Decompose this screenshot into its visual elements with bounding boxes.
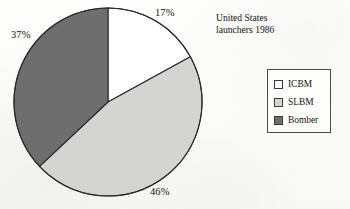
slice-value-label-bomber: 37% [11, 29, 31, 40]
legend-label-bomber: Bomber [288, 115, 318, 125]
chart-title: United States launchers 1986 [216, 12, 336, 35]
legend-swatch-icbm [274, 80, 283, 89]
pie-slices [14, 8, 202, 196]
slice-value-label-slbm: 46% [150, 186, 170, 197]
legend-label-slbm: SLBM [288, 97, 314, 107]
legend-item-icbm[interactable]: ICBM [274, 75, 330, 93]
legend-swatch-slbm [274, 98, 283, 107]
slice-value-label-icbm: 17% [155, 7, 175, 18]
legend-swatch-bomber [274, 116, 283, 125]
chart-legend: ICBM SLBM Bomber [267, 69, 331, 133]
legend-item-slbm[interactable]: SLBM [274, 93, 330, 111]
legend-item-bomber[interactable]: Bomber [274, 111, 330, 129]
legend-label-icbm: ICBM [288, 79, 312, 89]
